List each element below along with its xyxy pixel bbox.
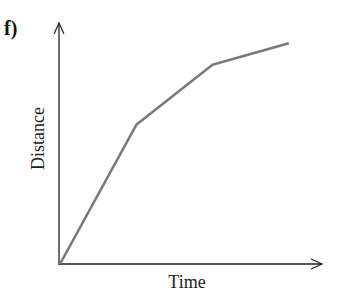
distance-time-graph (0, 0, 337, 304)
data-line (60, 43, 289, 264)
y-axis-label: Distance (28, 99, 49, 179)
x-axis-label: Time (160, 272, 214, 293)
